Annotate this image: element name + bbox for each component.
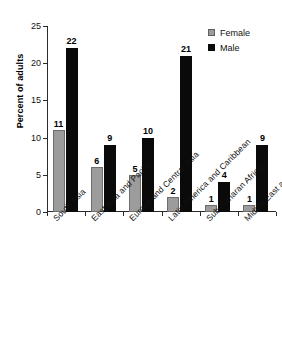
y-tick-label-10: 10 [31,133,41,143]
x-tick-1 [85,212,86,216]
bar-value-label: 1 [247,194,252,204]
legend-swatch-male-icon [208,44,215,51]
bar-value-label: 6 [94,156,99,166]
y-axis-line [47,26,48,212]
y-tick-25 [43,26,47,27]
y-tick-label-5: 5 [36,170,41,180]
bar-value-label: 10 [143,126,153,136]
y-tick-label-15: 15 [31,95,41,105]
x-tick-0 [47,212,48,216]
bar-female-0: 11 [53,130,65,212]
x-tick-4 [200,212,201,216]
y-tick-20 [43,63,47,64]
legend-label-male: Male [220,43,240,53]
x-tick-2 [123,212,124,216]
bar-value-label: 21 [181,44,191,54]
bar-value-label: 9 [107,133,112,143]
x-tick-3 [162,212,163,216]
legend-item-male[interactable]: Male [208,41,250,54]
y-tick-15 [43,100,47,101]
x-tick-5 [238,212,239,216]
bar-male-0: 22 [66,48,78,212]
legend-swatch-female-icon [208,29,215,36]
legend: Female Male [208,26,250,56]
bar-male-3: 21 [180,56,192,212]
y-tick-label-20: 20 [31,58,41,68]
bar-chart: Percent of adults 0510152025 11226951022… [0,0,282,340]
y-tick-10 [43,138,47,139]
bar-value-label: 9 [260,133,265,143]
y-tick-label-25: 25 [31,21,41,31]
legend-label-female: Female [220,28,250,38]
y-tick-5 [43,175,47,176]
bar-value-label: 1 [209,194,214,204]
bar-value-label: 11 [54,119,64,129]
bar-value-label: 22 [67,36,77,46]
bar-value-label: 2 [171,186,176,196]
legend-item-female[interactable]: Female [208,26,250,39]
y-tick-label-0: 0 [36,207,41,217]
y-axis-title: Percent of adults [15,41,25,141]
x-tick-6 [276,212,277,216]
